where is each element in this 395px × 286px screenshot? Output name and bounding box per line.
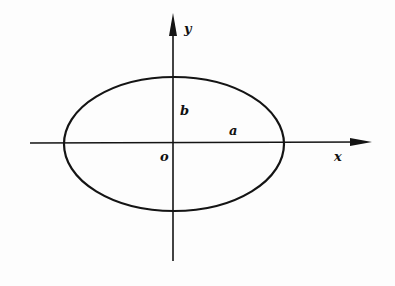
semi-minor-label: b [180,104,189,117]
diagram-svg [0,0,395,286]
origin-label: o [160,150,169,163]
x-axis-label: x [334,150,342,163]
y-axis-arrowhead-icon [169,13,177,36]
ellipse-curve [64,77,284,211]
x-axis [30,142,362,143]
x-axis-arrowhead-icon [350,138,372,146]
semi-major-label: a [229,124,237,137]
ellipse-diagram: y x o b a [0,0,395,286]
y-axis-label: y [184,22,192,35]
